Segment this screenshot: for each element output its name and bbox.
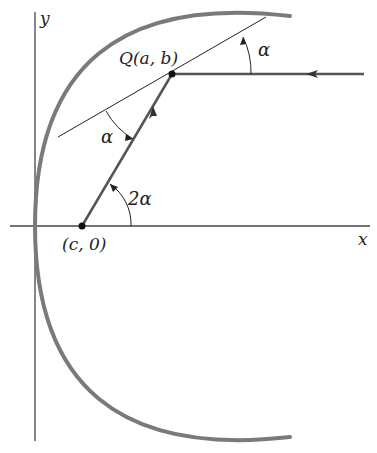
point-q-label: Q(a, b) (119, 48, 178, 68)
point-focus (79, 223, 86, 230)
tangent-line (58, 17, 266, 137)
y-axis-label: y (39, 8, 50, 28)
point-q-name: Q (119, 48, 133, 68)
x-axis-label: x (358, 229, 368, 249)
alpha-top-label: α (258, 39, 270, 60)
alpha-tangent-label: α (101, 126, 113, 147)
parabola-reflection-diagram: y x Q(a, b) (c, 0) α α 2α (0, 0, 377, 453)
point-q-coords: (a, b) (133, 48, 178, 68)
angle-arc-two-alpha-arrow-icon (110, 184, 118, 192)
point-q (169, 71, 176, 78)
focus-label: (c, 0) (62, 234, 106, 254)
two-alpha-label: 2α (127, 188, 152, 209)
